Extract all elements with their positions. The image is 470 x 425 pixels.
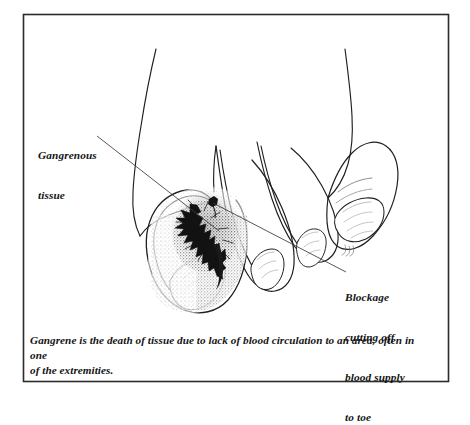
blockage-label-line4: to toe <box>345 411 405 424</box>
figure-caption-line2: of the extremities. <box>30 363 430 378</box>
gangrenous-tissue-label-line1: Gangrenous <box>38 149 97 162</box>
gangrenous-tissue-label: Gangrenous tissue <box>38 122 97 229</box>
figure-caption-line1: Gangrene is the death of tissue due to l… <box>30 333 430 363</box>
figure-caption: Gangrene is the death of tissue due to l… <box>30 333 430 377</box>
blockage-label-line1: Blockage <box>345 291 405 304</box>
gangrenous-tissue-label-line2: tissue <box>38 189 97 202</box>
